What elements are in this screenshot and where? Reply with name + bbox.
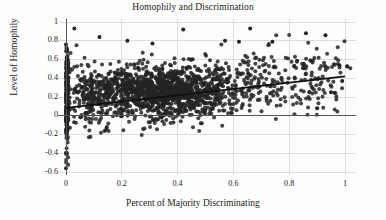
data-point: [230, 91, 234, 95]
data-point: [250, 66, 254, 70]
data-point: [127, 82, 131, 86]
data-point: [136, 61, 140, 65]
data-point: [66, 135, 70, 139]
data-point: [190, 72, 194, 76]
data-point: [304, 31, 308, 35]
data-point: [120, 108, 124, 112]
data-point: [190, 106, 194, 110]
data-point: [317, 87, 321, 91]
data-point: [125, 39, 129, 43]
data-point: [87, 129, 91, 133]
data-point: [148, 114, 152, 118]
data-point: [75, 97, 79, 101]
data-point: [314, 83, 318, 87]
data-point: [194, 97, 198, 101]
data-point: [81, 90, 85, 94]
data-point: [293, 55, 297, 59]
data-point: [329, 85, 333, 89]
data-point: [165, 81, 169, 85]
y-tick-label: -0.6: [32, 167, 58, 176]
data-point: [97, 35, 101, 39]
data-point: [105, 112, 109, 116]
data-point: [98, 92, 102, 96]
chart-container: Homophily and Discrimination Level of Ho…: [0, 0, 386, 220]
data-point: [68, 102, 72, 106]
y-tick-label: 0.4: [32, 73, 58, 82]
data-point: [161, 83, 165, 87]
data-point: [139, 74, 143, 78]
data-point: [246, 81, 250, 85]
data-point: [272, 59, 276, 63]
data-point: [290, 60, 294, 64]
data-point: [234, 84, 238, 88]
data-point: [169, 97, 173, 101]
data-point: [167, 71, 171, 75]
data-point: [148, 125, 152, 129]
data-point: [126, 96, 130, 100]
data-point: [104, 88, 108, 92]
data-point: [207, 112, 211, 116]
data-point: [105, 83, 109, 87]
data-point: [209, 96, 213, 100]
data-point: [185, 67, 189, 71]
data-point: [104, 76, 108, 80]
data-point: [72, 91, 76, 95]
data-point: [340, 79, 344, 83]
data-point: [72, 120, 76, 124]
data-point: [72, 27, 76, 31]
data-point: [291, 103, 295, 107]
data-point: [220, 124, 224, 128]
data-point: [178, 98, 182, 102]
data-point: [98, 111, 102, 115]
data-point: [181, 65, 185, 69]
data-point: [304, 66, 308, 70]
data-point: [129, 73, 133, 77]
data-point: [92, 81, 96, 85]
data-point: [99, 131, 103, 135]
data-point: [235, 89, 239, 93]
data-point: [100, 105, 104, 109]
data-point: [214, 78, 218, 82]
data-point: [201, 99, 205, 103]
data-point: [317, 56, 321, 60]
data-point: [113, 71, 117, 75]
data-point: [278, 103, 282, 107]
data-point: [269, 91, 273, 95]
data-point: [161, 87, 165, 91]
data-point: [69, 51, 73, 55]
data-point: [240, 93, 244, 97]
data-point: [308, 82, 312, 86]
data-point: [274, 33, 278, 37]
data-point: [336, 58, 340, 62]
data-point: [83, 125, 87, 129]
data-point: [248, 27, 252, 31]
data-point: [240, 106, 244, 110]
data-point: [83, 75, 87, 79]
data-point: [257, 91, 261, 95]
data-point: [333, 91, 337, 95]
data-point: [321, 95, 325, 99]
data-point: [116, 68, 120, 72]
data-point: [166, 101, 170, 105]
data-point: [126, 109, 130, 113]
data-point: [343, 39, 347, 43]
data-point: [102, 80, 106, 84]
data-point: [86, 98, 90, 102]
data-point: [257, 65, 261, 69]
data-point: [316, 101, 320, 105]
data-point: [248, 73, 252, 77]
data-point: [208, 58, 212, 62]
data-point: [161, 107, 165, 111]
data-point: [125, 91, 129, 95]
data-point: [108, 87, 112, 91]
y-tick-label: -0.4: [32, 148, 58, 157]
data-point: [235, 108, 239, 112]
data-point: [80, 85, 84, 89]
data-point: [257, 58, 261, 62]
data-point: [211, 77, 215, 81]
data-point: [238, 63, 242, 67]
data-point: [111, 78, 115, 82]
data-point: [204, 96, 208, 100]
data-point: [80, 113, 84, 117]
data-point: [66, 75, 70, 79]
